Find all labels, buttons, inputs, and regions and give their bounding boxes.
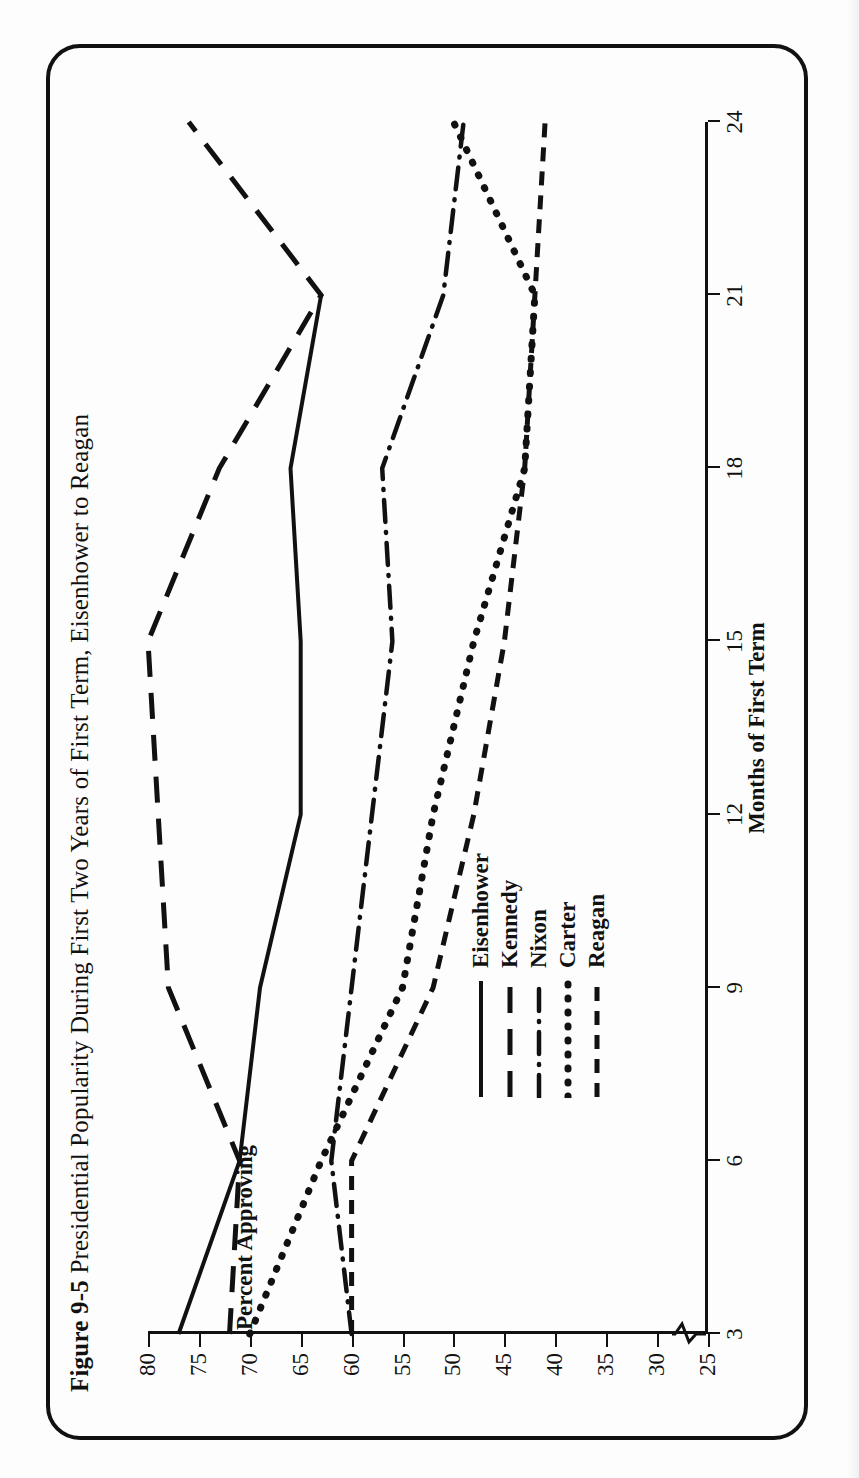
series-layer (148, 122, 708, 1334)
series-line-kennedy (148, 122, 321, 1334)
x-tick: 3 (708, 1332, 720, 1334)
legend-label: Nixon (525, 909, 551, 968)
y-tick: 25 (708, 1334, 710, 1347)
y-tick: 35 (606, 1334, 608, 1347)
x-tick: 6 (708, 1159, 720, 1161)
legend-label: Kennedy (496, 880, 522, 968)
y-tick-label: 25 (695, 1353, 721, 1376)
y-tick-label: 70 (236, 1353, 262, 1376)
legend-swatch-short-dash (589, 980, 603, 1098)
y-tick: 30 (657, 1334, 659, 1347)
scanned-page: Figure 9-5 Presidential Popularity Durin… (0, 0, 859, 1478)
x-tick: 15 (708, 639, 720, 641)
x-tick: 21 (708, 293, 720, 295)
y-tick: 40 (555, 1334, 557, 1347)
y-tick: 55 (402, 1334, 404, 1347)
x-tick: 18 (708, 466, 720, 468)
legend-item-carter[interactable]: Carter (553, 798, 582, 1098)
y-tick: 65 (300, 1334, 302, 1347)
legend-swatch-dash-dot (531, 980, 545, 1098)
legend: EisenhowerKennedyNixonCarterReagan (466, 798, 611, 1098)
y-tick: 50 (453, 1334, 455, 1347)
figure-title: Figure 9-5 Presidential Popularity Durin… (66, 72, 94, 1392)
legend-item-eisenhower[interactable]: Eisenhower (466, 798, 495, 1098)
legend-label: Carter (554, 902, 580, 968)
y-tick-label: 50 (440, 1353, 466, 1376)
series-line-nixon (331, 122, 463, 1334)
figure-caption: Presidential Popularity During First Two… (66, 414, 93, 1274)
x-tick: 9 (708, 986, 720, 988)
figure-number: Figure 9-5 (66, 1280, 93, 1392)
y-tick-label: 65 (287, 1353, 313, 1376)
y-tick-label: 75 (185, 1353, 211, 1376)
legend-swatch-dotted (560, 980, 574, 1098)
scan-edge-shadow (847, 0, 859, 1478)
legend-label: Eisenhower (467, 853, 493, 968)
figure-rotor: Figure 9-5 Presidential Popularity Durin… (30, 24, 830, 1454)
legend-item-kennedy[interactable]: Kennedy (495, 798, 524, 1098)
y-tick-label: 30 (644, 1353, 670, 1376)
legend-swatch-solid (473, 980, 487, 1098)
y-tick-label: 40 (542, 1353, 568, 1376)
legend-swatch-long-dash (502, 980, 516, 1098)
y-tick-label: 35 (593, 1353, 619, 1376)
plot-area: Percent Approving 2530354045505560657075… (148, 122, 708, 1334)
x-tick: 12 (708, 813, 720, 815)
y-tick: 45 (504, 1334, 506, 1347)
y-tick-label: 45 (491, 1353, 517, 1376)
x-tick: 24 (708, 120, 720, 122)
y-tick: 80 (148, 1334, 150, 1347)
legend-label: Reagan (583, 894, 609, 968)
x-axis-label: Months of First Term (744, 122, 770, 1334)
y-tick: 75 (198, 1334, 200, 1347)
y-tick-label: 80 (135, 1353, 161, 1376)
legend-item-reagan[interactable]: Reagan (582, 798, 611, 1098)
y-tick-label: 55 (389, 1353, 415, 1376)
legend-item-nixon[interactable]: Nixon (524, 798, 553, 1098)
series-line-eisenhower (178, 295, 321, 1334)
y-tick-label: 60 (338, 1353, 364, 1376)
